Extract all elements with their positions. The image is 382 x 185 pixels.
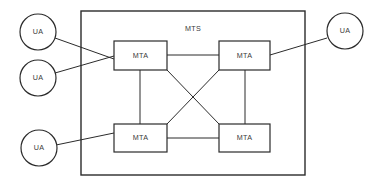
ua-left-top-label: UA: [33, 27, 44, 36]
mta-bottom-left-label: MTA: [133, 133, 149, 142]
node-mta-bottom-left: MTA: [114, 124, 167, 152]
mta-top-right-label: MTA: [237, 51, 253, 60]
node-ua-left-middle: UA: [20, 60, 56, 96]
ua-left-bottom-label: UA: [34, 143, 45, 152]
ua-left-middle-label: UA: [33, 73, 44, 82]
edge-ua-right-top-to-mta-top-right: [270, 38, 327, 55]
ua-right-top-label: UA: [340, 26, 351, 35]
edge-ua-left-bottom-to-mta-bottom-left: [56, 133, 114, 145]
mts-boundary-label: MTS: [185, 24, 201, 33]
node-mta-top-left: MTA: [114, 41, 167, 70]
mts-network-diagram: MTS UAUAUAUAMTAMTAMTAMTA: [0, 0, 382, 185]
node-ua-left-bottom: UA: [21, 130, 57, 166]
node-mta-bottom-right: MTA: [219, 124, 270, 152]
node-ua-right-top: UA: [327, 13, 363, 49]
mta-bottom-right-label: MTA: [237, 133, 253, 142]
edge-ua-left-middle-to-mta-top-left: [55, 56, 114, 73]
mta-top-left-label: MTA: [133, 51, 149, 60]
diagram-canvas: MTS UAUAUAUAMTAMTAMTAMTA: [0, 0, 382, 185]
nodes-layer: UAUAUAUAMTAMTAMTAMTA: [20, 13, 363, 166]
edge-ua-left-top-to-mta-top-left: [55, 38, 114, 59]
node-ua-left-top: UA: [20, 14, 56, 50]
edges-layer: [55, 38, 327, 145]
node-mta-top-right: MTA: [219, 41, 270, 70]
